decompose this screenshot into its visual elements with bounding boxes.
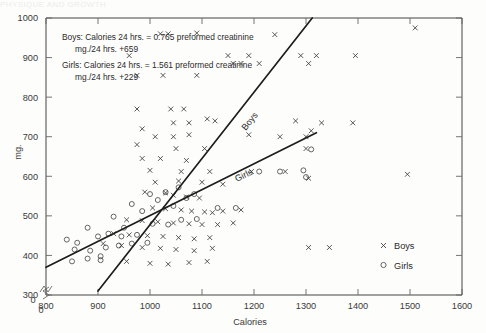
x-tick-label: 1200 (244, 301, 264, 311)
x-marker (181, 107, 186, 112)
scatter-plot-figure: 3004005006007008009001000 80090010001100… (0, 0, 486, 333)
circle-marker (148, 192, 153, 197)
x-marker (200, 222, 205, 227)
x-marker (309, 128, 314, 133)
x-marker (142, 190, 147, 195)
x-marker (145, 233, 150, 238)
y-tick-label: 600 (23, 172, 38, 182)
x-marker (272, 32, 277, 37)
circle-marker (116, 243, 121, 248)
x-marker (171, 120, 176, 125)
x-marker (197, 196, 202, 201)
x-marker (174, 247, 179, 252)
x-marker (207, 235, 212, 240)
y-axis-title: mg. (13, 144, 23, 159)
y-tick-label: 500 (23, 211, 38, 221)
regression-line-girls (46, 133, 316, 268)
x-marker (231, 221, 236, 226)
x-tick-label: 900 (90, 301, 105, 311)
x-marker (213, 118, 218, 123)
circle-marker (75, 240, 80, 245)
circle-marker (103, 245, 108, 250)
x-marker (192, 236, 197, 241)
x-marker (350, 120, 355, 125)
x-tick-label: 1500 (400, 301, 420, 311)
circle-marker-icon (381, 262, 386, 267)
x-marker (187, 120, 192, 125)
x-marker (127, 232, 132, 237)
x-marker (306, 61, 311, 66)
circle-marker (233, 205, 238, 210)
x-marker (246, 132, 251, 137)
x-marker (179, 169, 184, 174)
x-marker (140, 126, 145, 131)
x-marker (171, 221, 176, 226)
x-marker (306, 245, 311, 250)
legend-item-boys: Boys (381, 241, 415, 251)
x-tick-label: 1100 (192, 301, 212, 311)
x-marker (353, 53, 358, 58)
x-marker (257, 61, 262, 66)
regression-annotation: Boys: Calories 24 hrs. = 0.765 preformed… (62, 32, 254, 82)
x-marker (124, 217, 129, 222)
circle-marker (257, 169, 262, 174)
circle-marker (140, 209, 145, 214)
x-marker (140, 156, 145, 161)
x-marker (171, 134, 176, 139)
x-axis-title: Calories (233, 317, 267, 327)
circle-marker (119, 234, 124, 239)
annotation-boys-line1: Boys: Calories 24 hrs. = 0.765 preformed… (62, 32, 254, 42)
legend: Boys Girls (381, 241, 415, 271)
circle-marker (194, 217, 199, 222)
circle-marker (145, 240, 150, 245)
circle-marker (301, 168, 306, 173)
y-tick-label: 1000 (18, 13, 38, 23)
plot-svg: 3004005006007008009001000 80090010001100… (0, 0, 486, 333)
x-marker (215, 222, 220, 227)
x-marker (202, 146, 207, 151)
x-marker-icon (381, 243, 386, 248)
x-marker (187, 132, 192, 137)
x-marker (192, 248, 197, 253)
x-marker (278, 134, 283, 139)
x-marker (220, 209, 225, 214)
x-marker (176, 235, 181, 240)
origin-label-x: 0 (38, 305, 43, 315)
x-marker (135, 142, 140, 147)
origin-label-y: 0 (30, 295, 35, 305)
y-tick-label: 800 (23, 93, 38, 103)
x-marker (210, 246, 215, 251)
x-tick-label: 1400 (348, 301, 368, 311)
x-marker (202, 210, 207, 215)
x-marker (148, 168, 153, 173)
x-marker (413, 25, 418, 30)
circle-marker (64, 237, 69, 242)
x-marker (184, 158, 189, 163)
circle-marker (155, 198, 160, 203)
x-marker (101, 241, 106, 246)
circle-marker (70, 259, 75, 264)
x-marker (161, 234, 166, 239)
x-marker (179, 208, 184, 213)
x-marker (327, 245, 332, 250)
x-marker (187, 221, 192, 226)
curve-label-boys: Boys (240, 110, 261, 132)
circle-marker (85, 225, 90, 230)
curve-labels: BoysGirls (233, 110, 260, 184)
x-marker (293, 118, 298, 123)
x-marker (148, 261, 153, 266)
circle-marker (135, 232, 140, 237)
girls-data-points (64, 147, 313, 264)
annotation-boys-line2: mg./24 hrs. +659 (75, 44, 138, 54)
circle-marker (88, 248, 93, 253)
circle-marker (278, 169, 283, 174)
x-marker (135, 107, 140, 112)
circle-marker (72, 247, 77, 252)
circle-marker (166, 222, 171, 227)
x-marker (187, 260, 192, 265)
x-marker (174, 146, 179, 151)
x-marker (226, 53, 231, 58)
y-tick-label: 900 (23, 53, 38, 63)
legend-label-girls: Girls (394, 261, 413, 271)
annotation-girls-line2: mg./24 hrs. +229 (75, 72, 138, 82)
